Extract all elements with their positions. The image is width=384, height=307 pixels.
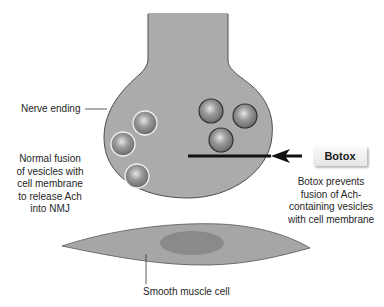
botox-effect-caption: Botox prevents fusion of Ach- containing… — [280, 176, 382, 226]
smooth-muscle-label: Smooth muscle cell — [143, 286, 230, 299]
vesicle — [133, 111, 157, 135]
normal-fusion-caption: Normal fusion of vesicles with cell memb… — [10, 153, 90, 216]
caption-line: into NMJ — [10, 203, 90, 216]
caption-line: Normal fusion — [10, 153, 90, 166]
caption-line: with cell membrane — [280, 214, 382, 227]
vesicle — [199, 99, 223, 123]
vesicle — [125, 164, 149, 188]
caption-line: cell membrane — [10, 178, 90, 191]
nerve-ending-label: Nerve ending — [21, 103, 80, 116]
arrow-left-icon — [271, 149, 302, 163]
vesicle — [209, 128, 233, 152]
botox-label: Botox — [313, 146, 367, 166]
nucleus — [160, 231, 224, 255]
vesicle — [111, 132, 135, 156]
caption-line: Botox prevents — [280, 176, 382, 189]
vesicle — [233, 104, 257, 128]
caption-line: containing vesicles — [280, 201, 382, 214]
caption-line: fusion of Ach- — [280, 189, 382, 202]
caption-line: of vesicles with — [10, 166, 90, 179]
caption-line: to release Ach — [10, 191, 90, 204]
